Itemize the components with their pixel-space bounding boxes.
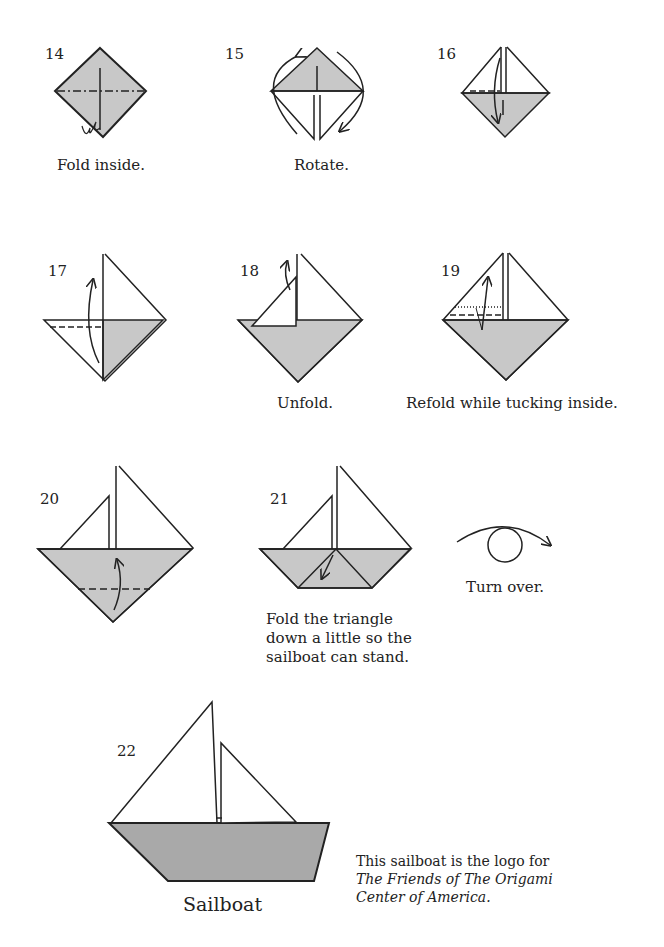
step-14-diagram bbox=[55, 48, 146, 137]
step-number-15: 15 bbox=[225, 45, 244, 63]
step-20-diagram bbox=[38, 466, 193, 622]
step-number-17: 17 bbox=[48, 262, 67, 280]
caption-fold-triangle: Fold the triangle down a little so the s… bbox=[266, 610, 416, 667]
step-19-diagram bbox=[443, 253, 568, 380]
caption-fold-inside: Fold inside. bbox=[57, 156, 145, 174]
step-22-sailboat-diagram bbox=[109, 702, 329, 881]
step-number-19: 19 bbox=[441, 262, 460, 280]
note-line-2: The Friends of The Origami bbox=[356, 871, 553, 887]
step-21-diagram bbox=[260, 466, 411, 588]
step-15-diagram bbox=[271, 48, 363, 139]
step-number-22: 22 bbox=[117, 742, 136, 760]
step-number-20: 20 bbox=[40, 490, 59, 508]
step-number-21: 21 bbox=[270, 490, 289, 508]
note-line-1: This sailboat is the logo for bbox=[356, 852, 553, 870]
step-number-14: 14 bbox=[45, 45, 64, 63]
step-16-diagram bbox=[462, 47, 549, 137]
turn-over-icon bbox=[457, 527, 550, 562]
step-number-18: 18 bbox=[240, 262, 259, 280]
step-number-16: 16 bbox=[437, 45, 456, 63]
caption-unfold: Unfold. bbox=[277, 394, 333, 412]
caption-turn-over: Turn over. bbox=[466, 578, 544, 596]
logo-note: This sailboat is the logo for The Friend… bbox=[356, 852, 553, 906]
caption-refold: Refold while tucking inside. bbox=[406, 394, 618, 412]
final-title: Sailboat bbox=[183, 893, 262, 915]
origami-diagrams bbox=[0, 0, 664, 947]
note-line-3: Center of America. bbox=[356, 889, 491, 905]
caption-rotate: Rotate. bbox=[294, 156, 349, 174]
